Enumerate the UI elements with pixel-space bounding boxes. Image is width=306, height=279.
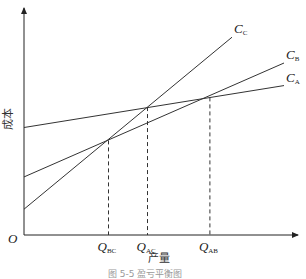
caption: 图 5-5 盈亏平衡图 xyxy=(108,268,182,279)
tick-label-q-ab: QAB xyxy=(199,239,218,255)
x-axis-label: 产量 xyxy=(148,251,170,265)
y-axis-label: 成本 xyxy=(1,108,15,130)
tick-label-q-bc: QBC xyxy=(98,239,117,255)
cost-line-c xyxy=(24,37,232,209)
cost-line-label-c: CC xyxy=(234,21,248,37)
cost-line-a xyxy=(24,86,284,128)
cost-line-label-b: CB xyxy=(286,47,300,63)
origin-label: O xyxy=(8,231,18,246)
cost-line-label-a: CA xyxy=(286,70,300,86)
chart: CACBCCQBCQACQAB O 产量 成本 图 5-5 盈亏平衡图 xyxy=(0,0,306,279)
cost-line-b xyxy=(24,63,284,177)
